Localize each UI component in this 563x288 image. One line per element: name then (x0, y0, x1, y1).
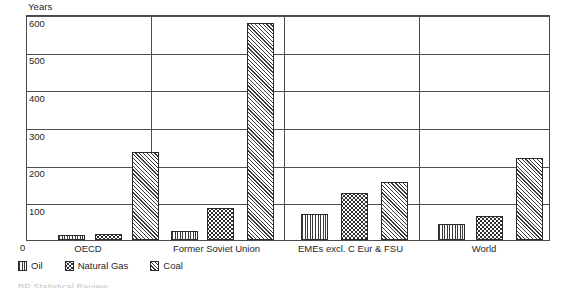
bar-coal (247, 23, 274, 240)
legend-item-oil: Oil (18, 260, 43, 271)
gridline (27, 91, 549, 92)
y-tick-label: 500 (29, 55, 45, 66)
gridline (27, 129, 549, 130)
gridline (27, 54, 549, 55)
y-axis-unit-label: Years (28, 1, 52, 12)
bar-natural-gas (95, 234, 122, 240)
group-separator (284, 16, 285, 240)
bar-coal (516, 158, 543, 240)
bar-oil (301, 214, 328, 240)
group-separator (419, 16, 420, 240)
bar-oil (438, 224, 465, 240)
bar-oil (58, 235, 85, 240)
y-tick-label: 600 (29, 18, 45, 29)
gridline (27, 204, 549, 205)
y-axis-zero-label: 0 (20, 242, 25, 253)
bar-natural-gas (341, 193, 368, 240)
chart-legend: OilNatural GasCoal (18, 260, 183, 271)
legend-swatch-diagonal-hatch (150, 261, 159, 271)
legend-swatch-dots (65, 261, 74, 271)
y-tick-label: 100 (29, 206, 45, 217)
y-tick-label: 400 (29, 93, 45, 104)
plot-area: 100200300400500600 (26, 15, 550, 241)
gridline (27, 16, 549, 17)
bar-coal (381, 182, 408, 240)
y-tick-label: 200 (29, 168, 45, 179)
category-label: World (472, 243, 497, 254)
bar-chart-figure: Years 100200300400500600 0 OECDFormer So… (0, 0, 563, 288)
bar-coal (132, 152, 159, 241)
legend-label: Oil (31, 260, 43, 271)
bar-natural-gas (207, 208, 234, 240)
gridline (27, 167, 549, 168)
source-note: BP Statistical Review (18, 281, 108, 288)
legend-item-coal: Coal (150, 260, 183, 271)
category-label: OECD (74, 243, 101, 254)
legend-label: Natural Gas (78, 260, 129, 271)
y-tick-label: 300 (29, 131, 45, 142)
category-label: EMEs excl. C Eur & FSU (298, 243, 403, 254)
bar-oil (171, 231, 198, 240)
bar-natural-gas (476, 216, 503, 241)
category-label: Former Soviet Union (173, 243, 260, 254)
legend-label: Coal (163, 260, 183, 271)
legend-swatch-vertical-lines (18, 261, 27, 271)
legend-item-natural-gas: Natural Gas (65, 260, 129, 271)
